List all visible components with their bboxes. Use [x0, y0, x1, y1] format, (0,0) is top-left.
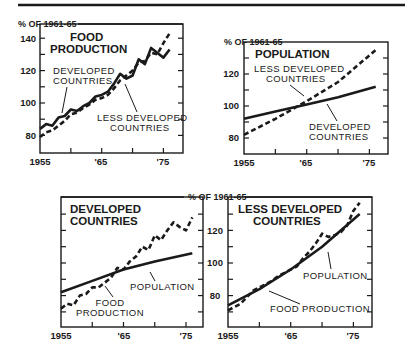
- series-lines: [61, 217, 192, 308]
- leader-line: [150, 272, 155, 281]
- annotation-developed-2: COUNTRIES: [309, 131, 369, 142]
- y-tick-80: 80: [25, 130, 36, 141]
- series-population: [228, 214, 360, 305]
- x-tick-1955: 1955: [233, 157, 255, 168]
- panel-title-line2: PRODUCTION: [50, 43, 127, 55]
- x-tick-75: '75: [347, 330, 361, 341]
- panel-title: POPULATION: [255, 48, 330, 60]
- annotation-food-production-2: PRODUCTION: [76, 307, 144, 318]
- x-tick-65: '65: [300, 157, 314, 168]
- series-food-production: [61, 217, 192, 308]
- panel-food-production: % OF 1961-65 140 120 100 80 1955 '65 '75…: [18, 19, 188, 167]
- panel-title-line2: COUNTRIES: [70, 215, 138, 227]
- panel-title-line2: COUNTRIES: [253, 215, 321, 227]
- leader-line: [327, 104, 337, 121]
- series-developed-countries: [244, 87, 376, 119]
- x-tick-1955: 1955: [29, 156, 51, 167]
- leader-line: [62, 87, 67, 113]
- x-tick-1955: 1955: [217, 330, 239, 341]
- chart-figure: % OF 1961-65 140 120 100 80 1955 '65 '75…: [0, 0, 405, 353]
- y-tick-80: 80: [210, 290, 221, 301]
- x-tick-1955: 1955: [50, 330, 72, 341]
- leader-line: [105, 286, 113, 297]
- panel-title-line1: DEVELOPED: [70, 203, 141, 215]
- annotation-less-developed-2: COUNTRIES: [110, 122, 170, 133]
- panel-developed-countries: 1955 '65 '75 DEVELOPED COUNTRIES POPULAT…: [50, 197, 203, 341]
- y-tick-100: 100: [223, 100, 239, 111]
- panel-title-line1: FOOD: [70, 31, 103, 43]
- leader-line: [328, 252, 331, 269]
- x-tick-75: '75: [157, 156, 171, 167]
- panel-less-developed-countries: 1955 '65 '75 LESS DEVELOPED COUNTRIES PO…: [217, 197, 372, 341]
- x-tick-75: '75: [363, 157, 377, 168]
- x-tick-65: '65: [95, 156, 109, 167]
- panel-title-line1: LESS DEVELOPED: [238, 203, 342, 215]
- y-tick-120: 120: [207, 225, 223, 236]
- x-tick-75: '75: [180, 330, 194, 341]
- leader-line: [290, 85, 304, 96]
- y-tick-100: 100: [20, 97, 36, 108]
- y-tick-80: 80: [228, 132, 239, 143]
- y-tick-120: 120: [20, 65, 36, 76]
- y-tick-100: 100: [207, 257, 223, 268]
- annotation-population: POPULATION: [130, 281, 195, 292]
- annotation-population: POPULATION: [303, 270, 368, 281]
- annotation-food-production: FOOD PRODUCTION: [270, 303, 370, 314]
- x-tick-65: '65: [118, 330, 132, 341]
- x-tick-65: '65: [285, 330, 299, 341]
- annotation-less-developed-2: COUNTRIES: [266, 73, 326, 84]
- y-tick-120: 120: [223, 68, 239, 79]
- panel-population: % OF 1961-65 120 100 80 1955 '65 '75 POP…: [223, 37, 388, 168]
- y-tick-140: 140: [20, 33, 36, 44]
- annotation-developed-2: COUNTRIES: [53, 75, 113, 86]
- leader-line: [125, 84, 137, 112]
